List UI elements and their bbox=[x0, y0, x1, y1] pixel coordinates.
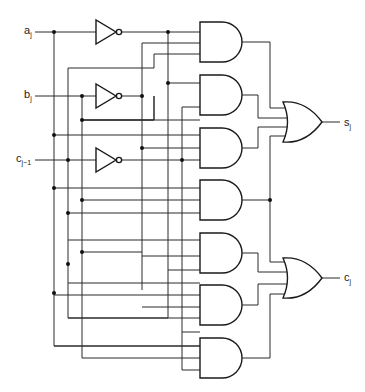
and-gates bbox=[200, 22, 242, 378]
not-gate-b bbox=[96, 84, 122, 108]
circuit-diagram bbox=[0, 0, 365, 392]
or-gate-carry bbox=[283, 258, 340, 298]
not-gate-c bbox=[96, 148, 122, 172]
or-input-wires bbox=[242, 42, 288, 358]
true-rails bbox=[54, 32, 200, 358]
not-gate-a bbox=[96, 20, 122, 44]
or-gate-sum bbox=[283, 102, 340, 142]
input-wires bbox=[35, 32, 96, 160]
gate-input-wires bbox=[54, 54, 200, 346]
